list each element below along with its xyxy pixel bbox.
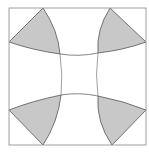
arc-top-inner [60,53,98,55]
shaded-region-bottom-right [98,96,146,145]
arc-right-inner [97,53,99,96]
geometry-figure [0,0,149,157]
arc-left-inner [60,54,62,95]
arc-bottom-inner [61,94,98,96]
shaded-region-top-right [98,8,146,53]
shaded-region-bottom-left [9,95,61,145]
shaded-region-top-left [9,8,60,54]
figure-canvas [0,0,149,157]
